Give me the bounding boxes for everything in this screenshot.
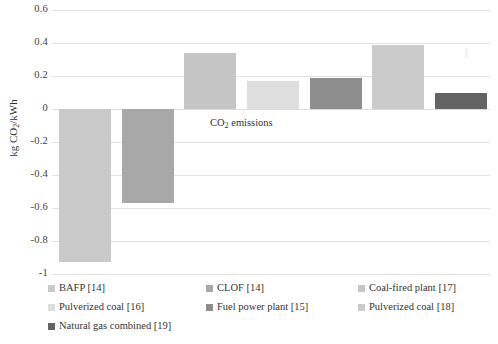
gridline — [52, 142, 490, 143]
bar — [247, 81, 299, 109]
category-label-subscript: 2 — [225, 121, 229, 130]
legend-swatch-icon — [48, 304, 55, 311]
legend-item[interactable]: Pulverized coal [18] — [358, 302, 454, 313]
bar — [310, 78, 362, 109]
x-axis-category-label: CO2 emissions — [210, 117, 273, 128]
category-label-main: CO — [210, 117, 225, 128]
chart-legend: BAFP [14]CLOF [14]Coal-fired plant [17]P… — [48, 283, 478, 339]
bar — [59, 109, 111, 262]
legend-item[interactable]: Natural gas combined [19] — [48, 321, 171, 332]
legend-label: Pulverized coal [18] — [369, 302, 454, 313]
legend-item[interactable]: Fuel power plant [15] — [206, 302, 308, 313]
gridline — [52, 175, 490, 176]
y-axis-tick-label: -0.4 — [31, 169, 48, 180]
legend-label: Fuel power plant [15] — [217, 302, 308, 313]
y-axis-tick-label: 0.6 — [34, 4, 48, 15]
y-axis-tick-label: 0.2 — [34, 70, 48, 81]
bar — [184, 53, 236, 109]
y-axis-tick-label: 0.4 — [34, 37, 48, 48]
y-axis-tick-label: -0.8 — [31, 235, 48, 246]
legend-label: Natural gas combined [19] — [59, 321, 171, 332]
legend-swatch-icon — [206, 304, 213, 311]
gridline — [52, 208, 490, 209]
bar — [435, 93, 487, 110]
legend-item[interactable]: CLOF [14] — [206, 283, 264, 294]
y-axis-tick-labels: 0.60.40.20-0.2-0.4-0.6-0.8-1 — [10, 10, 48, 274]
gridline — [52, 43, 490, 44]
legend-swatch-icon — [206, 285, 213, 292]
legend-swatch-icon — [48, 323, 55, 330]
legend-swatch-icon — [358, 304, 365, 311]
gridline — [52, 241, 490, 242]
category-label-tail: emissions — [229, 117, 273, 128]
legend-item[interactable]: Pulverized coal [16] — [48, 302, 144, 313]
legend-label: Pulverized coal [16] — [59, 302, 144, 313]
legend-item[interactable]: BAFP [14] — [48, 283, 105, 294]
y-axis-tick-label: -0.2 — [31, 136, 48, 147]
faint-artifact-mark — [465, 48, 468, 57]
legend-swatch-icon — [358, 285, 365, 292]
bar — [122, 109, 174, 203]
gridline — [52, 76, 490, 77]
y-axis-tick-label: -1 — [39, 268, 48, 279]
legend-label: BAFP [14] — [59, 283, 105, 294]
plot-area — [52, 10, 490, 274]
y-axis-tick-label: 0 — [43, 103, 48, 114]
co2-emissions-bar-chart: kg CO2/kWh 0.60.40.20-0.2-0.4-0.6-0.8-1 … — [0, 0, 498, 344]
legend-swatch-icon — [48, 285, 55, 292]
gridline — [52, 109, 490, 110]
gridline — [52, 274, 490, 275]
gridline — [52, 10, 490, 11]
bar — [372, 45, 424, 109]
legend-label: Coal-fired plant [17] — [369, 283, 456, 294]
legend-item[interactable]: Coal-fired plant [17] — [358, 283, 456, 294]
y-axis-tick-label: -0.6 — [31, 202, 48, 213]
legend-label: CLOF [14] — [217, 283, 264, 294]
